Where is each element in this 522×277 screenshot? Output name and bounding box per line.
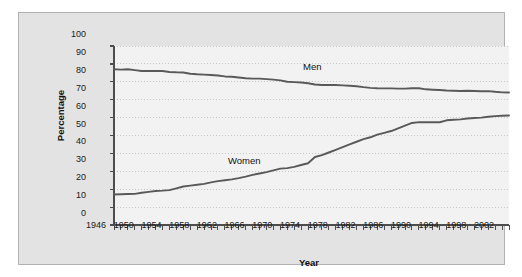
series-label-women: Women bbox=[228, 155, 261, 166]
y-axis-title: Percentage bbox=[55, 71, 66, 161]
x-tick-label: 1946 bbox=[81, 220, 111, 230]
x-tick-label: 1962 bbox=[192, 220, 222, 230]
x-tick-label: 1958 bbox=[164, 220, 194, 230]
x-tick-label: 2002 bbox=[469, 220, 499, 230]
plot-area bbox=[114, 46, 509, 225]
y-tick-label: 20 bbox=[60, 172, 86, 182]
y-tick-label: 0 bbox=[60, 208, 86, 218]
y-tick-label: 90 bbox=[60, 47, 86, 57]
x-axis-title: Year bbox=[214, 257, 404, 268]
chart-panel: 0102030405060708090100 19461950195419581… bbox=[18, 12, 505, 265]
x-tick-label: 1994 bbox=[414, 220, 444, 230]
x-tick-label: 1950 bbox=[109, 220, 139, 230]
x-tick-label: 1954 bbox=[136, 220, 166, 230]
chart-figure: 0102030405060708090100 19461950195419581… bbox=[0, 0, 522, 277]
x-tick-label: 1978 bbox=[303, 220, 333, 230]
x-tick-label: 1970 bbox=[247, 220, 277, 230]
x-tick-label: 1974 bbox=[275, 220, 305, 230]
x-tick-label: 1986 bbox=[358, 220, 388, 230]
y-tick-label: 100 bbox=[60, 29, 86, 39]
y-tick-label: 10 bbox=[60, 190, 86, 200]
x-tick-label: 1966 bbox=[220, 220, 250, 230]
x-tick-label: 1990 bbox=[386, 220, 416, 230]
x-tick-label: 1982 bbox=[330, 220, 360, 230]
x-tick-label: 1998 bbox=[441, 220, 471, 230]
series-label-men: Men bbox=[303, 61, 321, 72]
